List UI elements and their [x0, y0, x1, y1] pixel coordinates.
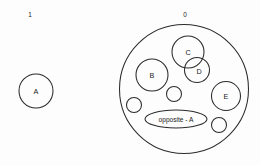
node-circle-small-1[interactable]	[167, 87, 182, 102]
node-label-opposite-a: opposite - A	[159, 116, 194, 124]
group-label-right: 0	[183, 11, 187, 18]
set-diagram-canvas: 1 0 A C D B E opposite - A	[0, 0, 260, 166]
node-label-a: A	[34, 87, 39, 96]
node-circle-small-2[interactable]	[127, 98, 142, 113]
node-label-b: B	[150, 71, 155, 80]
group-label-left: 1	[28, 11, 32, 18]
node-circle-small-3[interactable]	[212, 118, 227, 133]
diagram-svg: 1 0 A C D B E opposite - A	[0, 0, 260, 166]
node-label-e: E	[224, 92, 229, 101]
node-label-c: C	[185, 48, 190, 57]
node-label-d: D	[196, 67, 201, 76]
